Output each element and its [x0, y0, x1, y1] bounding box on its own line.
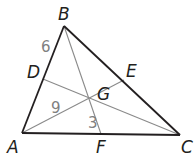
label-point-d: D — [27, 62, 40, 82]
label-point-g: G — [97, 84, 110, 104]
side-bc — [64, 26, 180, 135]
side-ac — [22, 133, 180, 135]
length-ag: 9 — [51, 99, 61, 117]
label-vertex-a: A — [6, 137, 19, 157]
label-vertex-c: C — [181, 137, 193, 157]
length-bd: 6 — [41, 38, 51, 56]
label-point-f: F — [96, 137, 106, 157]
label-vertex-b: B — [58, 4, 70, 24]
label-point-e: E — [126, 61, 137, 81]
triangle-diagram: B A C D E F G 6 9 3 — [0, 0, 196, 157]
length-gf: 3 — [88, 114, 98, 132]
median-c-to-d — [43, 79, 180, 135]
